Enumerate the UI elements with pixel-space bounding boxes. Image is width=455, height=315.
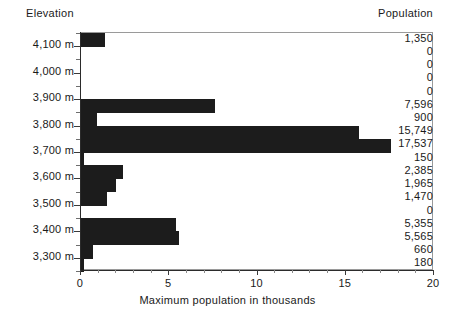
y-axis-line [80, 32, 81, 271]
y-axis-label: 3,600 m [8, 170, 74, 182]
y-axis-label: 3,900 m [8, 91, 74, 103]
bar [81, 178, 116, 192]
population-value: 900 [363, 111, 433, 123]
population-value: 660 [363, 243, 433, 255]
x-axis-label: 20 [427, 277, 440, 289]
y-axis-label: 3,300 m [8, 250, 74, 262]
bar [81, 33, 105, 47]
x-tick-minor [186, 270, 187, 273]
x-tick-minor [115, 270, 116, 273]
bar [81, 112, 97, 126]
x-axis-label: 15 [338, 277, 351, 289]
y-axis-label: 4,000 m [8, 65, 74, 77]
x-axis-title: Maximum population in thousands [0, 294, 455, 306]
population-value: 0 [363, 58, 433, 70]
bar [81, 165, 123, 179]
x-axis-label: 5 [165, 277, 171, 289]
x-tick-minor [309, 270, 310, 273]
elevation-population-chart: Elevation Population 4,100 m4,000 m3,900… [0, 0, 455, 315]
population-value: 17,537 [363, 137, 433, 149]
y-axis-label: 3,500 m [8, 197, 74, 209]
x-tick-minor [274, 270, 275, 273]
population-value: 180 [363, 256, 433, 268]
x-tick-minor [380, 270, 381, 273]
population-value: 15,749 [363, 124, 433, 136]
bar [81, 99, 215, 113]
population-value: 0 [363, 45, 433, 57]
population-value: 1,965 [363, 177, 433, 189]
x-tick-minor [98, 270, 99, 273]
x-tick-minor [398, 270, 399, 273]
x-tick-major [345, 270, 346, 275]
bar [81, 218, 176, 232]
bar [81, 192, 107, 206]
bar [81, 231, 179, 245]
y-axis-label: 3,400 m [8, 223, 74, 235]
x-tick-major [80, 270, 81, 275]
bar [81, 152, 84, 166]
x-tick-minor [239, 270, 240, 273]
x-tick-minor [151, 270, 152, 273]
y-axis-label: 4,100 m [8, 38, 74, 50]
elevation-column-header: Elevation [26, 7, 74, 19]
x-tick-minor [204, 270, 205, 273]
population-value: 0 [363, 71, 433, 83]
population-value: 7,596 [363, 98, 433, 110]
y-axis-label: 3,700 m [8, 144, 74, 156]
bar [81, 139, 391, 153]
population-value: 1,350 [363, 32, 433, 44]
x-tick-minor [221, 270, 222, 273]
population-value: 0 [363, 204, 433, 216]
x-tick-minor [292, 270, 293, 273]
x-axis-label: 10 [250, 277, 263, 289]
x-axis-label: 0 [77, 277, 83, 289]
population-value: 2,385 [363, 164, 433, 176]
population-column-header: Population [378, 7, 433, 19]
x-tick-major [433, 270, 434, 275]
population-value: 150 [363, 151, 433, 163]
x-tick-minor [133, 270, 134, 273]
x-tick-major [168, 270, 169, 275]
population-value: 5,565 [363, 230, 433, 242]
bar [81, 245, 93, 259]
population-value: 0 [363, 85, 433, 97]
x-tick-minor [362, 270, 363, 273]
x-tick-minor [415, 270, 416, 273]
population-value: 5,355 [363, 217, 433, 229]
bar [81, 126, 359, 140]
x-tick-minor [327, 270, 328, 273]
x-tick-major [257, 270, 258, 275]
population-value: 1,470 [363, 190, 433, 202]
y-axis-label: 3,800 m [8, 118, 74, 130]
